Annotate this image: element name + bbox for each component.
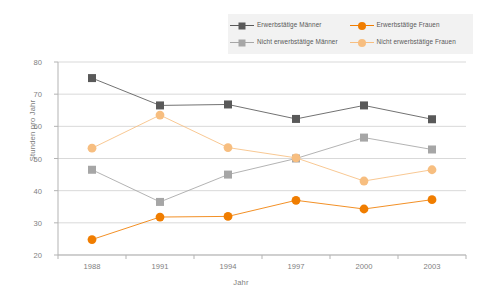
- x-tick-label: 1994: [220, 262, 237, 271]
- legend: Erwerbstätige MännerErwerbstätige Frauen…: [228, 14, 473, 54]
- legend-swatch: [358, 39, 366, 47]
- chart-container: 20304050607080 198819911994199720002003 …: [0, 0, 482, 298]
- data-point: [428, 115, 436, 123]
- legend-entry[interactable]: Erwerbstätige Frauen: [350, 22, 470, 28]
- legend-marker-circle-icon: [350, 42, 374, 43]
- y-tick-label: 80: [16, 58, 42, 67]
- legend-marker-circle-icon: [350, 25, 374, 26]
- legend-label: Erwerbstätige Frauen: [377, 22, 440, 28]
- legend-entry[interactable]: Erwerbstätige Männer: [230, 22, 350, 28]
- data-point: [156, 101, 164, 109]
- data-point: [88, 235, 97, 244]
- legend-label: Erwerbstätige Männer: [257, 22, 322, 28]
- legend-swatch: [239, 39, 246, 46]
- legend-label: Nicht erwerbstätige Männer: [257, 39, 338, 45]
- x-tick-label: 2003: [424, 262, 441, 271]
- data-point: [292, 196, 301, 205]
- data-point: [224, 100, 232, 108]
- x-tick-label: 2000: [356, 262, 373, 271]
- data-point: [156, 111, 165, 120]
- x-tick-label: 1988: [84, 262, 101, 271]
- legend-marker-square-icon: [230, 42, 254, 43]
- y-axis-title: Stunden pro Jahr: [28, 71, 37, 191]
- data-point: [360, 134, 368, 142]
- legend-swatch: [239, 22, 246, 29]
- data-point: [360, 177, 369, 186]
- data-point: [224, 143, 233, 152]
- series-line-2: [92, 200, 432, 240]
- y-tick-label: 30: [16, 218, 42, 227]
- data-point: [428, 165, 437, 174]
- series-markers: [88, 74, 437, 244]
- series-line-1: [92, 138, 432, 202]
- series-line-3: [92, 115, 432, 181]
- legend-label: Nicht erwerbstätige Frauen: [377, 39, 456, 45]
- data-point: [88, 74, 96, 82]
- y-tick-label: 20: [16, 251, 42, 260]
- legend-entry[interactable]: Nicht erwerbstätige Männer: [230, 39, 350, 45]
- data-point: [428, 195, 437, 204]
- gridlines: [58, 62, 466, 255]
- x-axis-title: Jahr: [0, 278, 482, 287]
- x-tick-label: 1991: [152, 262, 169, 271]
- data-point: [224, 212, 233, 221]
- legend-marker-square-icon: [230, 25, 254, 26]
- y-axis-tick-labels: 20304050607080: [8, 0, 42, 298]
- data-point: [156, 198, 164, 206]
- data-point: [88, 144, 97, 153]
- data-point: [88, 166, 96, 174]
- data-point: [224, 171, 232, 179]
- legend-entry[interactable]: Nicht erwerbstätige Frauen: [350, 39, 470, 45]
- data-point: [360, 101, 368, 109]
- x-tick-label: 1997: [288, 262, 305, 271]
- data-point: [292, 153, 301, 162]
- x-tick-marks: [58, 255, 466, 259]
- data-point: [360, 205, 369, 214]
- data-point: [156, 213, 165, 222]
- legend-swatch: [358, 22, 366, 30]
- data-point: [428, 145, 436, 153]
- data-point: [292, 115, 300, 123]
- series-line-0: [92, 78, 432, 119]
